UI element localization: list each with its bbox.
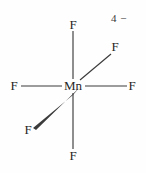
atom-label-mn: Mn	[64, 78, 83, 93]
atom-label-f-top: F	[69, 17, 76, 32]
bond-mn-f-lower-left-wedge	[33, 88, 79, 130]
chemical-structure-figure: Mn F F F F F F 4 −	[0, 0, 146, 173]
atom-label-f-upper-right: F	[111, 39, 118, 54]
atom-label-f-left: F	[10, 78, 17, 93]
atom-label-f-bottom: F	[69, 148, 76, 163]
atom-label-f-lower-left: F	[24, 122, 31, 137]
atom-label-f-right: F	[128, 78, 135, 93]
structure-canvas: Mn F F F F F F 4 −	[0, 0, 146, 173]
bond-mn-f-upper-right	[80, 54, 111, 80]
charge-label: 4 −	[111, 12, 127, 24]
